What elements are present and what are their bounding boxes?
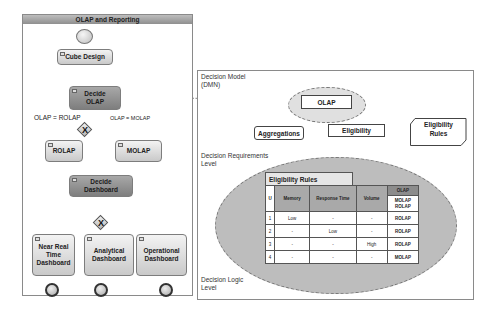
task-operational-dashboard[interactable]: OperationalDashboard — [136, 234, 187, 276]
decision-table-title: Eligibility Rules — [265, 172, 353, 185]
script-task-icon — [139, 237, 144, 241]
input-header-volume: Volume — [356, 186, 387, 212]
start-event[interactable] — [76, 29, 93, 44]
end-event-near-real-time[interactable] — [45, 283, 59, 297]
business-rule-icon — [72, 89, 77, 93]
task-decide-olap[interactable]: DecideOLAP — [69, 86, 121, 110]
task-rolap[interactable]: ROLAP — [45, 140, 83, 162]
label-decision-requirements-level: Decision RequirementsLevel — [201, 152, 268, 169]
pool-title: OLAP and Reporting — [23, 15, 192, 24]
end-event-analytical[interactable] — [94, 283, 108, 297]
input-header-memory: Memory — [275, 186, 310, 212]
task-molap[interactable]: MOLAP — [115, 140, 162, 162]
script-task-icon — [35, 237, 40, 241]
script-task-icon — [118, 143, 123, 147]
decision-olap[interactable]: OLAP — [301, 95, 352, 109]
gateway-x-icon: X — [77, 122, 93, 138]
business-rule-icon — [72, 178, 77, 182]
user-task-icon — [60, 52, 65, 56]
task-near-real-time-dashboard[interactable]: Near RealTimeDashboard — [32, 234, 75, 276]
condition-rolap: OLAP = ROLAP — [34, 114, 81, 121]
label-decision-logic-level: Decision LogicLevel — [201, 276, 243, 293]
script-task-icon — [48, 143, 53, 147]
hit-policy-cell: U — [266, 186, 275, 212]
bkm-eligibility-rules-label: EligibilityRules — [410, 121, 467, 139]
table-row: 1 Low - - ROLAP — [266, 212, 419, 225]
task-decide-dashboard[interactable]: DecideDashboard — [69, 175, 133, 197]
task-analytical-dashboard[interactable]: AnalyticalDashboard — [84, 234, 134, 276]
output-header-olap: OLAP — [387, 186, 418, 196]
end-event-operational[interactable] — [159, 283, 173, 297]
knowledge-source-aggregations[interactable]: Aggregations — [254, 126, 304, 140]
output-allowed-values: MOLAPROLAP — [387, 196, 418, 212]
task-cube-design[interactable]: Cube Design — [57, 49, 113, 65]
condition-molap: OLAP = MOLAP — [110, 115, 150, 121]
script-task-icon — [87, 237, 92, 241]
decision-table: U Memory Response Time Volume OLAP MOLAP… — [265, 185, 419, 264]
table-row: 4 - - - MOLAP — [266, 251, 419, 264]
table-row: 3 - - High ROLAP — [266, 238, 419, 251]
gateway-x-icon: X — [93, 215, 109, 231]
label-decision-model: Decision Model(DMN) — [201, 73, 245, 90]
input-header-response-time: Response Time — [310, 186, 356, 212]
decision-eligibility[interactable]: Eligibility — [328, 124, 385, 137]
table-row: 2 - Low - ROLAP — [266, 225, 419, 238]
